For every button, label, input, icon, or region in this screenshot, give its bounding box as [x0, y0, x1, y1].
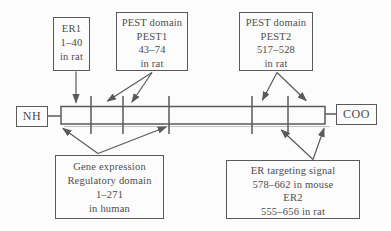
pest2-title: PEST domain [240, 16, 312, 30]
pest1-title: PEST domain [117, 16, 187, 30]
pest2-arrow-right [277, 73, 306, 101]
protein-domain-diagram: ER1 1–40 in rat PEST domain PEST1 43–74 … [0, 0, 391, 231]
gene-expression-line2: Regulatory domain [56, 174, 163, 188]
er-targeting-mouse-range: 578–662 in mouse [227, 178, 359, 192]
er-targeting-name: ER2 [227, 191, 359, 205]
pest1-species: in rat [117, 57, 187, 71]
pest2-arrow-left [263, 73, 278, 101]
gene-expression-species: in human [56, 202, 163, 216]
er1-title: ER1 [54, 22, 89, 36]
er-targeting-arrow-right [313, 129, 324, 160]
pest2-range: 517–528 [240, 43, 312, 57]
c-terminus-box: COO [336, 104, 377, 125]
pest2-callout-box: PEST domain PEST2 517–528 in rat [239, 12, 313, 71]
gene-expression-arrow-right [98, 127, 166, 154]
n-terminus-label: NH [23, 109, 41, 123]
er1-range: 1–40 [54, 36, 89, 50]
er-targeting-title: ER targeting signal [227, 164, 359, 178]
pest2-name: PEST2 [240, 30, 312, 44]
er1-callout-box: ER1 1–40 in rat [53, 17, 90, 71]
er-targeting-rat-range: 555–656 in rat [227, 205, 359, 219]
er-targeting-arrow-left [282, 130, 314, 160]
n-terminus-box: NH [16, 106, 48, 127]
pest2-species: in rat [240, 57, 312, 71]
protein-bar [61, 107, 325, 125]
gene-expression-line1: Gene expression [56, 160, 163, 174]
pest1-arrow-left [108, 73, 153, 102]
gene-expression-range: 1–271 [56, 188, 163, 202]
pest1-name: PEST1 [117, 30, 187, 44]
pest1-callout-box: PEST domain PEST1 43–74 in rat [116, 12, 188, 71]
er1-species: in rat [54, 50, 89, 64]
gene-expression-arrow-left [63, 129, 98, 154]
c-terminus-label: COO [343, 107, 370, 121]
pest1-arrow-right [132, 73, 152, 103]
er-targeting-callout-box: ER targeting signal 578–662 in mouse ER2… [226, 160, 360, 219]
gene-expression-callout-box: Gene expression Regulatory domain 1–271 … [55, 155, 164, 219]
pest1-range: 43–74 [117, 43, 187, 57]
